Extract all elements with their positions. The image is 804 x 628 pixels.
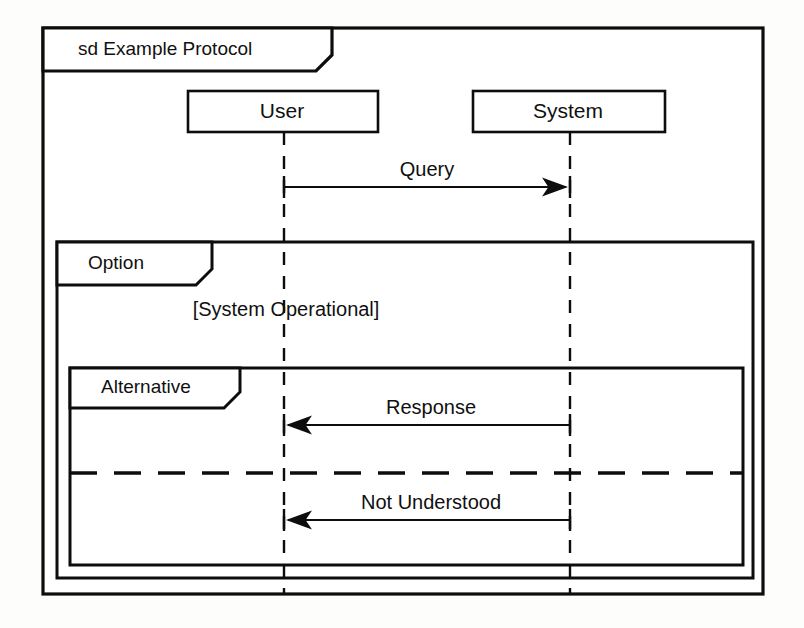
lifeline-user-label: User [260, 99, 304, 122]
message-response-label: Response [386, 396, 476, 418]
diagram-svg: sd Example Protocol User System Query Op… [0, 0, 804, 628]
frame-title-label: sd Example Protocol [78, 38, 252, 59]
fragment-option-guard-label: [System Operational] [193, 298, 380, 320]
lifeline-system-label: System [533, 99, 603, 122]
fragment-option-operator-label: Option [88, 252, 144, 273]
sequence-diagram-canvas: sd Example Protocol User System Query Op… [0, 0, 804, 628]
fragment-alternative-operator-label: Alternative [101, 376, 191, 397]
message-query-label: Query [400, 158, 454, 180]
message-not-understood-label: Not Understood [361, 491, 501, 513]
